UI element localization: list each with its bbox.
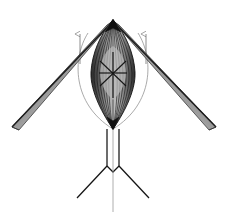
- gear-leg-left: [77, 166, 107, 198]
- gear-leg-right: [119, 166, 149, 198]
- rotorcraft-drawing: [0, 0, 229, 221]
- figure-canvas: Rotorcraft front-view wireframe Technica…: [0, 0, 229, 221]
